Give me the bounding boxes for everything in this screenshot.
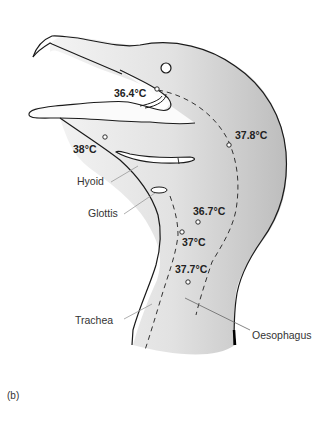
temp-label-trachea-upper: 37°C bbox=[182, 237, 205, 248]
probe-point bbox=[196, 220, 200, 224]
glottis-opening bbox=[151, 187, 167, 193]
head-neck-silhouette bbox=[31, 36, 287, 355]
eye-icon bbox=[161, 63, 171, 73]
neck-right-edge-thick bbox=[234, 330, 235, 345]
label-glottis: Glottis bbox=[88, 208, 118, 219]
label-trachea: Trachea bbox=[75, 315, 113, 326]
temp-label-head-right: 37.8°C bbox=[235, 130, 267, 141]
temp-label-mouth: 36.4°C bbox=[114, 88, 146, 99]
probe-point bbox=[180, 230, 184, 234]
bird-head-diagram bbox=[0, 0, 332, 424]
probe-point bbox=[155, 87, 159, 91]
label-hyoid: Hyoid bbox=[77, 176, 104, 187]
probe-point bbox=[227, 143, 231, 147]
panel-label: (b) bbox=[7, 391, 19, 401]
temp-label-throat: 38°C bbox=[73, 144, 96, 155]
probe-point bbox=[103, 135, 107, 139]
probe-point bbox=[186, 280, 190, 284]
temp-label-neck-upper: 36.7°C bbox=[193, 206, 225, 217]
label-oesophagus: Oesophagus bbox=[252, 330, 312, 341]
temp-label-neck-lower: 37.7°C bbox=[175, 264, 207, 275]
